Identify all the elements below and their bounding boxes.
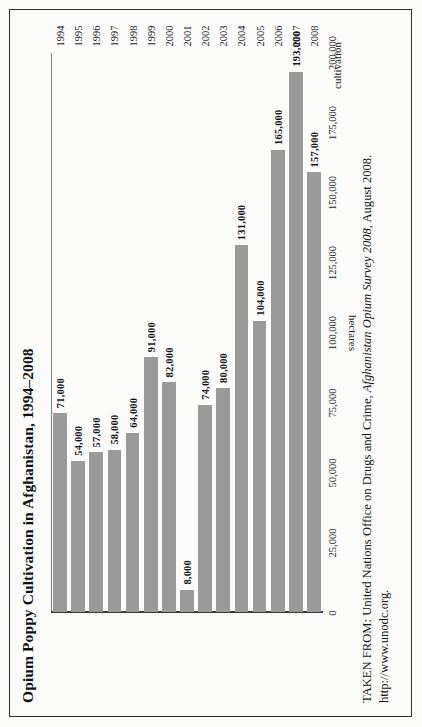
bar-fill: [89, 452, 103, 612]
category-tick-2007: 2007: [290, 23, 301, 49]
bar-fill: [180, 589, 194, 611]
plot-area: 71,00054,00057,00058,00064,00091,00082,0…: [51, 53, 323, 613]
value-tick-label: 125,000: [327, 245, 338, 279]
category-tick-2003: 2003: [218, 23, 229, 49]
category-tick-1994: 1994: [55, 23, 66, 49]
value-tick-label: 25,000: [327, 528, 338, 557]
source-url: http://www.unodc.org.: [376, 27, 393, 703]
bar-value-label: 64,000: [127, 397, 138, 427]
bar-fill: [216, 388, 230, 612]
bar-value-label: 58,000: [109, 414, 120, 444]
bar-value-label: 71,000: [55, 378, 66, 408]
category-tick-1998: 1998: [127, 23, 138, 49]
bar-fill: [289, 71, 303, 611]
value-tick-label: 175,000: [327, 105, 338, 139]
source-prefix: TAKEN FROM: United Nations Office on Dru…: [360, 392, 374, 703]
category-tick-2005: 2005: [254, 23, 265, 49]
bar-value-label: 157,000: [308, 131, 319, 167]
bar-fill: [253, 320, 267, 611]
bar-series: 71,00054,00057,00058,00064,00091,00082,0…: [51, 52, 323, 612]
bar-fill: [198, 404, 212, 611]
bar-value-label: 82,000: [163, 347, 174, 377]
source-suffix: , August 2008.: [360, 154, 374, 227]
bar-fill: [271, 150, 285, 612]
bar-fill: [53, 413, 67, 612]
value-tick-label: 150,000: [327, 175, 338, 209]
bar-fill: [126, 432, 140, 611]
category-tick-1996: 1996: [91, 23, 102, 49]
category-tick-2001: 2001: [182, 23, 193, 49]
bar-value-label: 165,000: [272, 109, 283, 145]
bar-fill: [71, 460, 85, 611]
value-axis-label: hectares: [347, 53, 359, 613]
value-tick-label: 50,000: [327, 458, 338, 487]
category-tick-2006: 2006: [272, 23, 283, 49]
category-tick-1995: 1995: [73, 23, 84, 49]
category-axis-label: cultivation: [331, 41, 343, 88]
bar-value-label: 91,000: [145, 322, 156, 352]
category-tick-1997: 1997: [109, 23, 120, 49]
source-title: Afghanistan Opium Survey 2008: [360, 228, 374, 392]
category-axis-labels: 1994199519961997199819992000200120022003…: [51, 23, 323, 49]
bar-fill: [162, 382, 176, 612]
value-axis-ticks: 025,00050,00075,000100,000125,000150,000…: [327, 53, 347, 613]
bar-fill: [144, 357, 158, 612]
bar-value-label: 104,000: [254, 280, 265, 316]
category-tick-2008: 2008: [308, 23, 319, 49]
category-tick-2000: 2000: [163, 23, 174, 49]
chart-title: Opium Poppy Cultivation in Afghanistan, …: [19, 348, 37, 703]
bar-value-label: 80,000: [218, 352, 229, 382]
bar-fill: [235, 245, 249, 612]
category-tick-2002: 2002: [200, 23, 211, 49]
bar-value-label: 57,000: [91, 417, 102, 447]
value-tick-label: 75,000: [327, 388, 338, 417]
bar-value-label: 8,000: [181, 559, 192, 584]
scanned-page: Opium Poppy Cultivation in Afghanistan, …: [0, 0, 422, 727]
rotated-figure-wrapper: Opium Poppy Cultivation in Afghanistan, …: [0, 0, 422, 727]
category-tick-2004: 2004: [236, 23, 247, 49]
bar-fill: [307, 172, 321, 612]
source-note: TAKEN FROM: United Nations Office on Dru…: [359, 27, 393, 703]
bar-fill: [108, 449, 122, 611]
bar-value-label: 131,000: [236, 204, 247, 240]
value-tick-label: 100,000: [327, 315, 338, 349]
figure-landscape-canvas: Opium Poppy Cultivation in Afghanistan, …: [15, 19, 407, 709]
bar-value-label: 54,000: [73, 425, 84, 455]
category-tick-1999: 1999: [145, 23, 156, 49]
bar-value-label: 74,000: [200, 369, 211, 399]
value-tick-label: 0: [327, 610, 338, 615]
